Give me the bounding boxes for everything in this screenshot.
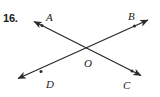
- point-marker-b: [133, 25, 136, 28]
- point-label-d: D: [46, 79, 54, 90]
- point-label-b: B: [128, 11, 135, 22]
- point-marker-c: [131, 70, 134, 73]
- point-label-a: A: [46, 12, 53, 23]
- intersecting-lines-diagram: [0, 0, 160, 97]
- point-marker-a: [41, 24, 44, 27]
- geometry-figure: 16. A B O D C: [0, 0, 160, 97]
- point-marker-d: [40, 70, 43, 73]
- point-label-o: O: [84, 58, 92, 69]
- point-label-c: C: [123, 80, 130, 91]
